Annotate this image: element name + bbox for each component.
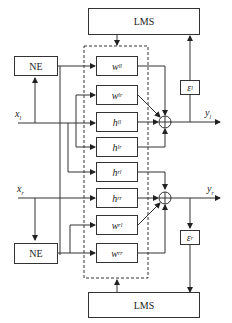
filter-block-w-lr: wlr xyxy=(96,85,138,105)
lms-top-block: LMS xyxy=(88,8,200,35)
block-base: w xyxy=(111,248,118,259)
lms-top-label: LMS xyxy=(134,16,155,27)
block-sub: lr xyxy=(118,92,122,98)
block-sub: rl xyxy=(118,222,122,228)
lms-bottom-label: LMS xyxy=(134,300,155,311)
block-sub: ll xyxy=(119,63,122,69)
input-x-l-label: xl xyxy=(15,108,21,121)
block-sub: lr xyxy=(117,144,121,150)
block-base: w xyxy=(112,220,119,231)
error-sub: l xyxy=(191,85,193,91)
block-sub: rr xyxy=(117,195,122,201)
ne-top-block: NE xyxy=(14,56,58,76)
filter-block-h-lr: hlr xyxy=(96,137,138,157)
filter-block-w-rr: wrr xyxy=(96,243,138,263)
ne-bottom-block: NE xyxy=(14,243,58,264)
block-base: w xyxy=(112,90,119,101)
filter-block-h-rr: hrr xyxy=(96,188,138,208)
filter-block-h-ll: hll xyxy=(96,112,138,132)
block-sub: ll xyxy=(118,119,121,125)
output-y-r-label: yr xyxy=(207,183,214,196)
block-sub: rl xyxy=(117,169,121,175)
ne-bottom-label: NE xyxy=(29,248,42,259)
output-y-l-label: yl xyxy=(205,107,211,120)
lms-bottom-block: LMS xyxy=(88,292,200,318)
block-sub: rr xyxy=(118,250,123,256)
ne-top-label: NE xyxy=(29,61,42,72)
error-top-block: εl xyxy=(180,80,200,95)
error-sub: r xyxy=(191,235,193,241)
block-base: w xyxy=(112,61,119,72)
input-x-r-label: xr xyxy=(17,183,24,196)
filter-block-w-rl: wrl xyxy=(96,215,138,235)
filter-block-w-ll: wll xyxy=(96,56,138,76)
filter-block-h-rl: hrl xyxy=(96,162,138,182)
error-bottom-block: εr xyxy=(180,230,200,245)
